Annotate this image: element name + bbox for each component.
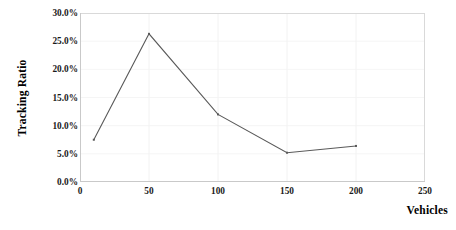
data-point-marker [355, 145, 357, 147]
data-point-marker [93, 139, 95, 141]
data-point-marker [286, 152, 288, 154]
chart-figure: Tracking Ratio 0.0%5.0%10.0%15.0%20.0%25… [0, 0, 456, 230]
x-tick-label: 0 [78, 186, 83, 196]
x-axis-title-text: Vehicles [407, 204, 448, 216]
x-tick-label: 250 [418, 186, 432, 196]
x-tick-label: 50 [144, 186, 153, 196]
x-tick-label: 200 [349, 186, 363, 196]
x-axis-title: Vehicles [407, 204, 448, 216]
x-tick-label: 150 [280, 186, 294, 196]
data-point-marker [217, 113, 219, 115]
line-chart-svg [80, 13, 425, 182]
data-series-line [94, 34, 356, 153]
data-point-marker [148, 33, 150, 35]
x-tick-label: 100 [211, 186, 225, 196]
plot-area [80, 13, 425, 182]
